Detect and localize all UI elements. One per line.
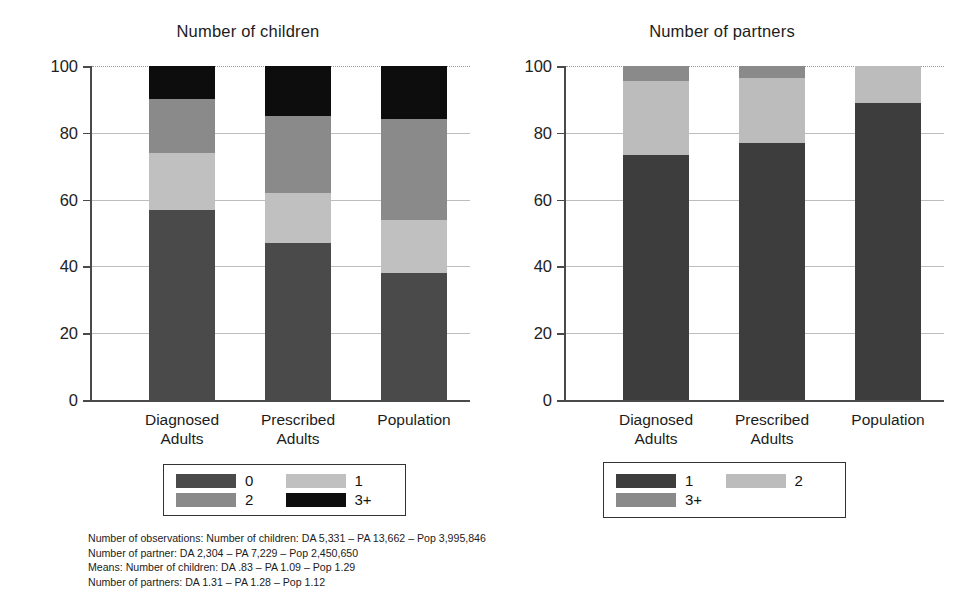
footnote-line-observations-partners: Number of partner: DA 2,304 – PA 7,229 –… (88, 546, 828, 561)
bar-segment-partners-2-1[interactable] (855, 103, 921, 400)
legend-label-children-2: 2 (245, 492, 253, 507)
plot-area-children: 020406080100Diagnosed AdultsPrescribed A… (90, 66, 470, 402)
y-tick-label-20: 20 (534, 324, 552, 343)
x-category-label-partners-1: Prescribed Adults (735, 411, 809, 449)
footnote-block: Number of observations: Number of childr… (88, 531, 828, 589)
legend-swatch-icon-children-1 (286, 474, 346, 488)
x-axis-partners (564, 400, 944, 402)
y-tick-label-40: 40 (60, 257, 78, 276)
legend-item-partners-1[interactable]: 1 (616, 471, 726, 490)
bar-segment-children-1-1[interactable] (265, 193, 331, 243)
footnote-line-means-children: Means: Number of children: DA .83 – PA 1… (88, 560, 828, 575)
y-tick-label-60: 60 (534, 190, 552, 209)
y-tick-label-80: 80 (60, 123, 78, 142)
bar-segment-partners-1-3plus[interactable] (739, 66, 805, 78)
legend-item-children-3plus[interactable]: 3+ (286, 490, 396, 509)
x-category-label-children-1: Prescribed Adults (261, 411, 335, 449)
bar-segment-partners-0-2[interactable] (623, 81, 689, 154)
bar-partners-0[interactable] (623, 66, 689, 400)
y-tick-100 (557, 66, 565, 68)
y-axis-partners (564, 66, 566, 402)
bar-segment-children-1-0[interactable] (265, 243, 331, 400)
legend-swatch-icon-partners-2 (726, 474, 786, 488)
legend-label-partners-3plus: 3+ (685, 492, 702, 507)
bar-segment-children-1-2[interactable] (265, 116, 331, 193)
legend-item-children-1[interactable]: 1 (286, 471, 396, 490)
x-axis-children (90, 400, 470, 402)
legend-label-children-1: 1 (355, 473, 363, 488)
chart-title-partners: Number of partners (492, 22, 952, 41)
bar-segment-children-0-0[interactable] (149, 210, 215, 400)
bar-segment-partners-0-3plus[interactable] (623, 66, 689, 81)
bar-segment-children-2-3plus[interactable] (381, 66, 447, 119)
legend-item-children-0[interactable]: 0 (176, 471, 286, 490)
y-tick-0 (83, 400, 91, 402)
bar-children-1[interactable] (265, 66, 331, 400)
bar-segment-children-0-1[interactable] (149, 153, 215, 210)
y-tick-0 (557, 400, 565, 402)
y-tick-label-100: 100 (524, 57, 552, 76)
x-category-label-partners-0: Diagnosed Adults (619, 411, 693, 449)
x-category-label-children-2: Population (377, 411, 450, 430)
legend-swatch-icon-children-0 (176, 474, 236, 488)
chart-panel-number-of-partners: Number of partners 020406080100Diagnosed… (492, 22, 952, 462)
y-tick-label-40: 40 (534, 257, 552, 276)
legend-swatch-icon-children-3plus (286, 493, 346, 507)
y-tick-100 (83, 66, 91, 68)
bar-segment-children-1-3plus[interactable] (265, 66, 331, 116)
bar-segment-children-0-3plus[interactable] (149, 66, 215, 99)
bar-segment-children-2-0[interactable] (381, 273, 447, 400)
y-tick-40 (83, 266, 91, 268)
bar-children-0[interactable] (149, 66, 215, 400)
x-category-label-children-0: Diagnosed Adults (145, 411, 219, 449)
legend-number-of-children: 0123+ (163, 464, 406, 516)
legend-number-of-partners: 123+ (603, 462, 846, 518)
y-tick-80 (557, 133, 565, 135)
y-tick-label-60: 60 (60, 190, 78, 209)
bar-segment-partners-1-1[interactable] (739, 143, 805, 400)
y-tick-label-80: 80 (534, 123, 552, 142)
chart-panel-number-of-children: Number of children 020406080100Diagnosed… (18, 22, 478, 462)
legend-label-partners-2: 2 (795, 473, 803, 488)
y-tick-label-0: 0 (543, 391, 552, 410)
y-axis-children (90, 66, 92, 402)
y-tick-label-0: 0 (69, 391, 78, 410)
bar-segment-children-2-1[interactable] (381, 220, 447, 273)
legend-item-partners-2[interactable]: 2 (726, 471, 836, 490)
legend-label-children-0: 0 (245, 473, 253, 488)
bar-partners-1[interactable] (739, 66, 805, 400)
legend-label-children-3plus: 3+ (355, 492, 372, 507)
x-category-label-partners-2: Population (851, 411, 924, 430)
legend-swatch-icon-partners-1 (616, 474, 676, 488)
legend-item-partners-3plus[interactable]: 3+ (616, 490, 726, 509)
bar-partners-2[interactable] (855, 66, 921, 400)
y-tick-60 (83, 200, 91, 202)
plot-area-partners: 020406080100Diagnosed AdultsPrescribed A… (564, 66, 944, 402)
y-tick-80 (83, 133, 91, 135)
y-tick-label-20: 20 (60, 324, 78, 343)
legend-item-children-2[interactable]: 2 (176, 490, 286, 509)
legend-swatch-icon-children-2 (176, 493, 236, 507)
footnote-line-observations-children: Number of observations: Number of childr… (88, 531, 828, 546)
y-tick-40 (557, 266, 565, 268)
stacked-bar-figure: Number of children 020406080100Diagnosed… (0, 0, 969, 596)
bar-segment-partners-1-2[interactable] (739, 78, 805, 143)
footnote-line-means-partners: Number of partners: DA 1.31 – PA 1.28 – … (88, 575, 828, 590)
y-tick-20 (83, 333, 91, 335)
chart-title-children: Number of children (18, 22, 478, 41)
bar-segment-children-0-2[interactable] (149, 99, 215, 152)
bar-segment-children-2-2[interactable] (381, 119, 447, 219)
bar-children-2[interactable] (381, 66, 447, 400)
y-tick-label-100: 100 (50, 57, 78, 76)
y-tick-60 (557, 200, 565, 202)
y-tick-20 (557, 333, 565, 335)
legend-label-partners-1: 1 (685, 473, 693, 488)
bar-segment-partners-0-1[interactable] (623, 155, 689, 400)
bar-segment-partners-2-2[interactable] (855, 66, 921, 103)
legend-swatch-icon-partners-3plus (616, 493, 676, 507)
